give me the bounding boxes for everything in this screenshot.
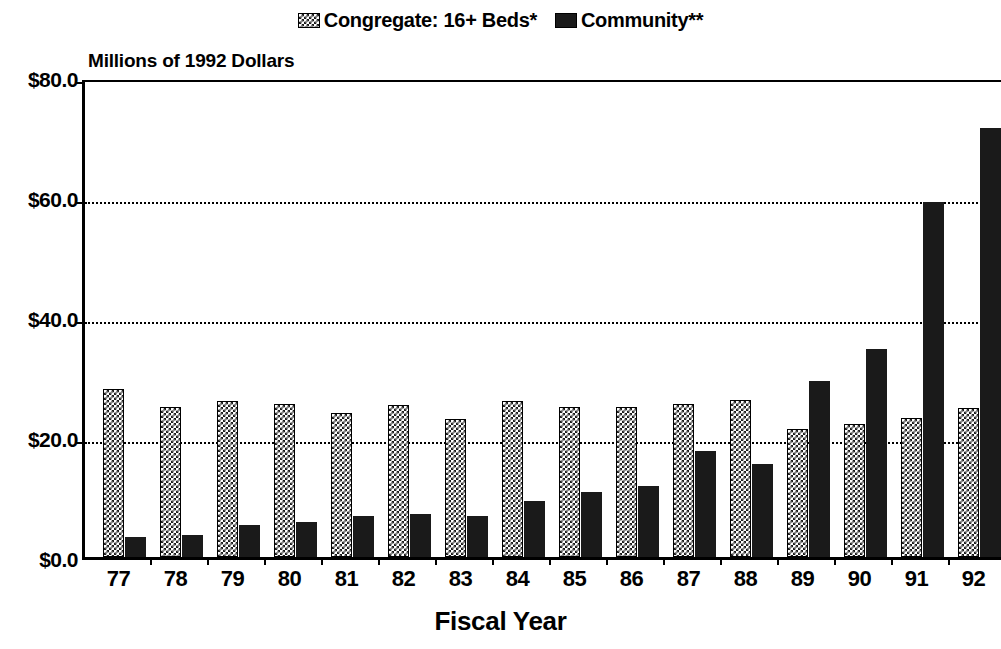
- x-axis-tick-mark: [435, 557, 437, 565]
- x-axis-tick-mark: [606, 557, 608, 565]
- x-axis-tick-mark: [549, 557, 551, 565]
- bar-congregate-88: [730, 400, 751, 557]
- bar-congregate-85: [559, 407, 580, 557]
- bar-congregate-89: [787, 429, 808, 557]
- bar-community-86: [638, 486, 659, 557]
- bar-community-84: [524, 501, 545, 557]
- bar-group-77: [93, 82, 150, 557]
- legend-label-community: Community**: [581, 9, 703, 32]
- solid-black-swatch-icon: [555, 13, 577, 28]
- x-axis-tick-mark: [321, 557, 323, 565]
- chart-legend: Congregate: 16+ Beds* Community**: [0, 4, 1001, 36]
- bar-congregate-92: [958, 408, 979, 557]
- bar-community-79: [239, 525, 260, 557]
- bar-community-85: [581, 492, 602, 557]
- bar-congregate-77: [103, 389, 124, 557]
- x-axis-tick-label-77: 77: [90, 566, 147, 592]
- y-axis-tick-label: $80.0: [0, 68, 78, 92]
- x-axis-tick-mark: [834, 557, 836, 565]
- x-axis-tick-label-88: 88: [717, 566, 774, 592]
- legend-entry-congregate: Congregate: 16+ Beds*: [298, 9, 537, 32]
- bar-congregate-87: [673, 404, 694, 557]
- bar-community-78: [182, 535, 203, 557]
- bar-group-88: [720, 82, 777, 557]
- bar-group-79: [207, 82, 264, 557]
- bar-congregate-80: [274, 404, 295, 557]
- x-axis-tick-mark: [663, 557, 665, 565]
- bar-community-91: [923, 202, 944, 557]
- bar-community-87: [695, 451, 716, 557]
- x-axis-tick-label-86: 86: [603, 566, 660, 592]
- bar-community-81: [353, 516, 374, 557]
- bar-group-92: [948, 82, 1001, 557]
- x-axis-tick-mark: [492, 557, 494, 565]
- legend-entry-community: Community**: [555, 9, 703, 32]
- bar-community-82: [410, 514, 431, 557]
- bar-congregate-91: [901, 418, 922, 557]
- x-axis-tick-label-85: 85: [546, 566, 603, 592]
- x-axis-tick-label-89: 89: [774, 566, 831, 592]
- x-axis-tick-mark: [777, 557, 779, 565]
- bar-group-89: [777, 82, 834, 557]
- bar-community-92: [980, 128, 1001, 557]
- x-axis-tick-mark: [150, 557, 152, 565]
- y-axis-tick-mark: [76, 82, 85, 84]
- y-axis-tick-mark: [76, 322, 85, 324]
- x-axis-tick-label-81: 81: [318, 566, 375, 592]
- legend-label-congregate: Congregate: 16+ Beds*: [324, 9, 537, 32]
- bar-congregate-84: [502, 401, 523, 557]
- y-axis-tick-label: $20.0: [0, 428, 78, 452]
- bar-group-85: [549, 82, 606, 557]
- plot-area: [82, 80, 1001, 560]
- bar-group-83: [435, 82, 492, 557]
- x-axis-tick-mark: [948, 557, 950, 565]
- bar-group-90: [834, 82, 891, 557]
- y-axis-tick-labels: $0.0$20.0$40.0$60.0$80.0: [0, 80, 78, 560]
- x-axis-tick-label-78: 78: [147, 566, 204, 592]
- bar-congregate-83: [445, 419, 466, 557]
- bar-congregate-78: [160, 407, 181, 557]
- x-axis-tick-label-91: 91: [888, 566, 945, 592]
- bar-community-88: [752, 464, 773, 557]
- x-axis-tick-label-82: 82: [375, 566, 432, 592]
- bar-group-87: [663, 82, 720, 557]
- y-axis-title: Millions of 1992 Dollars: [88, 50, 294, 72]
- bar-group-81: [321, 82, 378, 557]
- x-axis-tick-mark: [378, 557, 380, 565]
- y-axis-tick-mark: [76, 202, 85, 204]
- checker-pattern-swatch-icon: [298, 13, 320, 28]
- y-axis-tick-label: $0.0: [0, 548, 78, 572]
- bar-group-82: [378, 82, 435, 557]
- x-axis-tick-label-79: 79: [204, 566, 261, 592]
- x-axis-tick-labels: 77787980818283848586878889909192: [82, 566, 1001, 598]
- x-axis-tick-label-90: 90: [831, 566, 888, 592]
- x-axis-tick-label-92: 92: [945, 566, 1001, 592]
- y-axis-tick-label: $60.0: [0, 188, 78, 212]
- x-axis-tick-label-87: 87: [660, 566, 717, 592]
- bar-congregate-86: [616, 407, 637, 557]
- bar-community-90: [866, 349, 887, 557]
- y-axis-tick-mark: [76, 442, 85, 444]
- bar-congregate-81: [331, 413, 352, 557]
- bar-community-80: [296, 522, 317, 557]
- x-axis-tick-mark: [207, 557, 209, 565]
- bar-congregate-90: [844, 424, 865, 557]
- bar-congregate-79: [217, 401, 238, 557]
- x-axis-tick-label-84: 84: [489, 566, 546, 592]
- y-axis-tick-label: $40.0: [0, 308, 78, 332]
- x-axis-tick-mark: [891, 557, 893, 565]
- bar-group-78: [150, 82, 207, 557]
- bar-group-80: [264, 82, 321, 557]
- bar-community-89: [809, 381, 830, 557]
- bar-group-91: [891, 82, 948, 557]
- x-axis-tick-mark: [720, 557, 722, 565]
- bar-community-77: [125, 537, 146, 557]
- x-axis-tick-label-83: 83: [432, 566, 489, 592]
- bar-group-84: [492, 82, 549, 557]
- bar-congregate-82: [388, 405, 409, 557]
- x-axis-tick-mark: [264, 557, 266, 565]
- bar-community-83: [467, 516, 488, 557]
- bar-group-86: [606, 82, 663, 557]
- x-axis-tick-label-80: 80: [261, 566, 318, 592]
- x-axis-title: Fiscal Year: [0, 606, 1001, 637]
